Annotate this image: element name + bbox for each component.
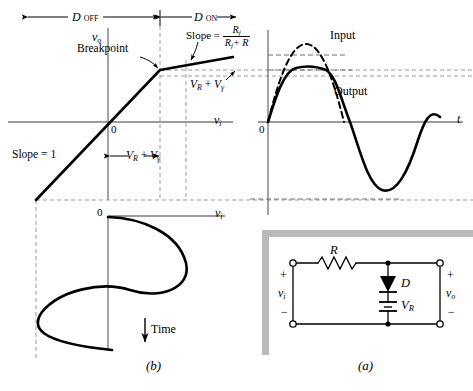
region-d-off-label: D off bbox=[72, 10, 98, 25]
terminal-input-top bbox=[290, 260, 296, 266]
knee-value-label: VR + Vγ bbox=[190, 78, 224, 92]
caption-b: (b) bbox=[146, 358, 161, 374]
resistor-symbol bbox=[318, 257, 356, 269]
input-plot-axis-label: vi bbox=[215, 206, 223, 221]
input-waveform-label: Input bbox=[330, 28, 355, 43]
input-plot-origin-label: 0 bbox=[97, 206, 103, 218]
output-time-axis-label: t bbox=[457, 112, 460, 127]
transfer-origin-label: 0 bbox=[111, 123, 117, 135]
breakpoint-pointer bbox=[140, 57, 158, 68]
input-waveform-plot bbox=[38, 216, 225, 350]
circuit-input-label: vi bbox=[278, 286, 286, 301]
circuit-output-label: vo bbox=[446, 286, 455, 301]
slope-formula-label: Slope = Rf Rf+ R bbox=[186, 24, 250, 50]
output-minus-sign: − bbox=[448, 305, 455, 320]
slope-one-label: Slope = 1 bbox=[12, 148, 56, 160]
transfer-x-axis-label: vi bbox=[214, 113, 222, 128]
battery-label: VR bbox=[401, 298, 414, 313]
caption-a: (a) bbox=[358, 358, 373, 374]
terminal-output-top bbox=[437, 260, 443, 266]
terminal-input-bottom bbox=[290, 321, 296, 327]
input-plus-sign: + bbox=[280, 268, 287, 283]
terminal-output-bottom bbox=[437, 321, 443, 327]
node-dot-bottom bbox=[385, 321, 390, 326]
node-dot-top bbox=[385, 260, 390, 265]
diode-label: D bbox=[401, 276, 410, 291]
threshold-width-label: VR + Vγ bbox=[126, 149, 160, 163]
resistor-label: R bbox=[330, 243, 338, 258]
input-minus-sign: − bbox=[281, 305, 288, 320]
output-plus-sign: + bbox=[447, 268, 454, 283]
output-waveform-plot bbox=[250, 30, 463, 215]
output-waveform-label: Output bbox=[334, 84, 367, 99]
region-d-on-label: D on bbox=[194, 10, 217, 25]
diode-symbol bbox=[379, 276, 397, 292]
time-label: Time bbox=[151, 322, 176, 337]
breakpoint-label: Breakpoint bbox=[77, 42, 128, 54]
clipper-figure bbox=[0, 0, 473, 391]
input-waveform-dashed bbox=[268, 44, 344, 122]
battery-symbol bbox=[379, 302, 397, 311]
output-origin-label: 0 bbox=[259, 123, 265, 135]
circuit-schematic bbox=[290, 257, 443, 327]
